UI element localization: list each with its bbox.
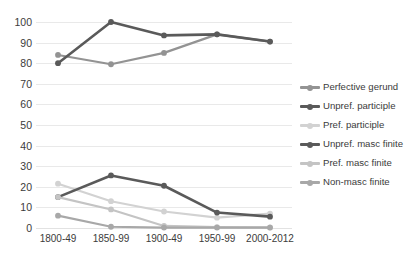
legend-item-5[interactable]: Non-masc finite bbox=[300, 173, 415, 192]
data-point bbox=[214, 225, 220, 231]
chart-legend: Perfective gerundUnpref. participlePref.… bbox=[300, 78, 415, 192]
legend-swatch-icon bbox=[300, 140, 320, 150]
data-point bbox=[108, 61, 114, 67]
y-axis-tick-label: 70 bbox=[0, 79, 32, 90]
data-point bbox=[55, 194, 61, 200]
y-axis-tick-label: 40 bbox=[0, 140, 32, 151]
data-point bbox=[214, 31, 220, 37]
series-1 bbox=[55, 19, 273, 66]
legend-swatch-icon bbox=[300, 121, 320, 131]
y-axis-tick-label: 50 bbox=[0, 120, 32, 131]
data-point bbox=[108, 207, 114, 213]
legend-item-label: Perfective gerund bbox=[323, 82, 398, 93]
series-layer bbox=[36, 22, 292, 228]
legend-item-label: Unpref. masc finite bbox=[323, 139, 403, 150]
data-point bbox=[108, 224, 114, 230]
x-axis: 1800-491850-991900-491950-992000-2012 bbox=[36, 233, 292, 249]
data-point bbox=[161, 183, 167, 189]
data-point bbox=[108, 19, 114, 25]
legend-item-3[interactable]: Unpref. masc finite bbox=[300, 135, 415, 154]
y-axis: 1009080706050403020100 bbox=[0, 22, 32, 228]
y-axis-tick-label: 60 bbox=[0, 99, 32, 110]
data-point bbox=[267, 39, 273, 45]
legend-item-4[interactable]: Pref. masc finite bbox=[300, 154, 415, 173]
series-line bbox=[58, 22, 270, 63]
data-point bbox=[214, 210, 220, 216]
data-point bbox=[267, 225, 273, 231]
legend-swatch-icon bbox=[300, 83, 320, 93]
legend-item-label: Unpref. participle bbox=[323, 101, 396, 112]
y-axis-tick-label: 0 bbox=[0, 223, 32, 234]
legend-item-0[interactable]: Perfective gerund bbox=[300, 78, 415, 97]
data-point bbox=[108, 198, 114, 204]
data-point bbox=[161, 225, 167, 231]
data-point bbox=[161, 32, 167, 38]
legend-item-1[interactable]: Unpref. participle bbox=[300, 97, 415, 116]
data-point bbox=[161, 50, 167, 56]
y-axis-tick-label: 20 bbox=[0, 182, 32, 193]
legend-item-label: Pref. masc finite bbox=[323, 158, 392, 169]
data-point bbox=[214, 215, 220, 221]
data-point bbox=[55, 52, 61, 58]
x-axis-tick-label: 1900-49 bbox=[146, 233, 183, 245]
plot-area bbox=[36, 22, 292, 228]
legend-item-2[interactable]: Pref. participle bbox=[300, 116, 415, 135]
x-axis-tick-label: 1850-99 bbox=[93, 233, 130, 245]
data-point bbox=[267, 214, 273, 220]
legend-swatch-icon bbox=[300, 178, 320, 188]
y-axis-tick-label: 30 bbox=[0, 161, 32, 172]
line-chart: 1009080706050403020100 1800-491850-99190… bbox=[0, 0, 415, 267]
x-axis-tick-label: 1950-99 bbox=[199, 233, 236, 245]
y-axis-tick-label: 90 bbox=[0, 37, 32, 48]
x-axis-tick-label: 1800-49 bbox=[40, 233, 77, 245]
legend-item-label: Non-masc finite bbox=[323, 177, 390, 188]
y-axis-tick-label: 100 bbox=[0, 17, 32, 28]
data-point bbox=[108, 173, 114, 179]
y-axis-tick-label: 80 bbox=[0, 58, 32, 69]
x-axis-tick-label: 2000-2012 bbox=[246, 233, 294, 245]
legend-swatch-icon bbox=[300, 102, 320, 112]
y-axis-tick-label: 10 bbox=[0, 202, 32, 213]
legend-swatch-icon bbox=[300, 159, 320, 169]
legend-item-label: Pref. participle bbox=[323, 120, 384, 131]
data-point bbox=[161, 209, 167, 215]
data-point bbox=[55, 181, 61, 187]
data-point bbox=[55, 213, 61, 219]
data-point bbox=[55, 60, 61, 66]
